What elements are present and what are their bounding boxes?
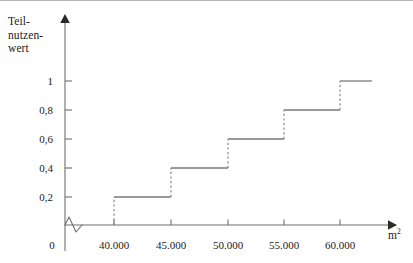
y-tick-label-0-8: 0,8 (20, 105, 53, 116)
y-axis-ticks (65, 81, 72, 197)
y-axis-title-line-1: Teil- (8, 15, 43, 29)
y-axis-arrowhead (60, 14, 70, 23)
y-axis-title-line-2: nutzen- (8, 29, 43, 43)
x-tick-label-55000: 55.000 (269, 240, 299, 251)
y-tick-label-0-2: 0,2 (20, 192, 53, 203)
x-axis-title: m2 (388, 229, 401, 243)
y-tick-label-1: 1 (20, 76, 53, 87)
step-treads (114, 81, 372, 197)
chart-canvas (0, 1, 413, 263)
step-risers (114, 81, 340, 225)
x-axis-title-base: m (388, 229, 397, 241)
y-tick-label-0-6: 0,6 (20, 134, 53, 145)
x-axis-ticks (114, 220, 340, 226)
origin-label: 0 (49, 240, 55, 251)
x-axis-title-superscript: 2 (397, 227, 401, 236)
x-tick-label-50000: 50.000 (213, 240, 243, 251)
y-tick-label-0-4: 0,4 (20, 163, 53, 174)
x-tick-label-45000: 45.000 (156, 240, 186, 251)
chart-figure: Teil- nutzen- wert m2 0,2 0,4 0,6 0,8 1 … (0, 0, 413, 263)
y-axis-title: Teil- nutzen- wert (8, 15, 43, 56)
y-axis-title-line-3: wert (8, 42, 43, 56)
x-tick-label-60000: 60.000 (325, 240, 355, 251)
x-tick-label-40000: 40.000 (99, 240, 129, 251)
